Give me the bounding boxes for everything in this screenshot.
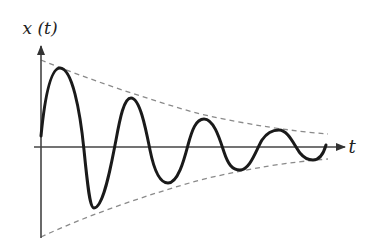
y-axis-label: x (t): [22, 18, 57, 38]
x-axis-label: t: [348, 136, 356, 157]
lower-envelope: [41, 159, 328, 237]
upper-envelope: [41, 60, 328, 134]
damped-oscillation-curve: [41, 68, 326, 208]
damped-oscillation-diagram: x (t) t: [0, 0, 373, 250]
